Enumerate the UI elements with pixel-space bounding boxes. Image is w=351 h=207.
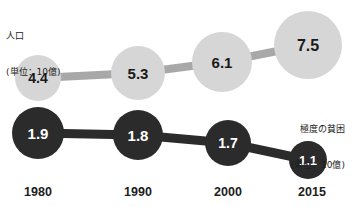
series-label-poverty: 極度の貧困 (単位：10億): [291, 99, 345, 195]
population-connectors: [38, 45, 308, 78]
bubble-population-2015[interactable]: 7.5: [274, 11, 342, 79]
connected-bubble-chart: 4.4 5.3 6.1 7.5 1.9 1.8: [0, 0, 351, 207]
series-label-population-line1: 人口: [6, 30, 60, 42]
x-axis-tick-1990: 1990: [124, 185, 152, 199]
x-axis-ticks: 1980 1990 2000 2015: [24, 185, 326, 199]
bubble-poverty-1980[interactable]: 1.9: [12, 107, 64, 159]
series-label-poverty-line2: (単位：10億): [291, 159, 345, 171]
x-axis-tick-2000: 2000: [214, 185, 242, 199]
bubble-population-2000[interactable]: 6.1: [192, 32, 252, 92]
series-label-population: 人口 (単位：10億): [6, 6, 60, 102]
series-label-poverty-line1: 極度の貧困: [291, 123, 345, 135]
bubble-value-label: 1.8: [128, 127, 149, 144]
bubble-value-label: 6.1: [212, 54, 233, 71]
x-axis-tick-1980: 1980: [24, 185, 52, 199]
bubble-poverty-2000[interactable]: 1.7: [205, 120, 251, 166]
population-series: 4.4 5.3 6.1 7.5: [15, 11, 342, 101]
poverty-series: 1.9 1.8 1.7 1.1: [12, 107, 327, 179]
bubble-value-label: 5.3: [128, 65, 149, 82]
bubble-population-1990[interactable]: 5.3: [111, 46, 165, 100]
bubble-value-label: 1.7: [218, 135, 238, 151]
bubble-poverty-1990[interactable]: 1.8: [113, 110, 163, 160]
bubble-value-label: 7.5: [297, 37, 319, 54]
series-label-population-line2: (単位：10億): [6, 66, 60, 78]
bubble-value-label: 1.9: [28, 125, 49, 142]
poverty-connectors: [38, 133, 308, 160]
